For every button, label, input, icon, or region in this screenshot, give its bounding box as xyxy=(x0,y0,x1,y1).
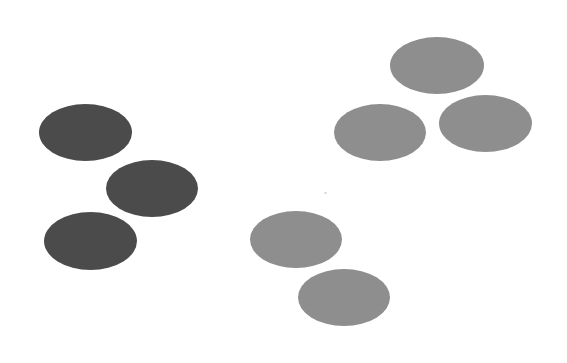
light-ellipse-bottom-right xyxy=(298,269,390,326)
light-ellipse-mid-right xyxy=(439,95,532,152)
light-ellipse-top xyxy=(390,37,484,94)
dark-ellipse-1 xyxy=(39,104,132,161)
light-ellipse-mid-left xyxy=(334,104,426,161)
background-speck xyxy=(324,192,327,194)
dark-ellipse-3 xyxy=(44,212,137,270)
dark-ellipse-2 xyxy=(106,160,198,217)
light-ellipse-bottom-left xyxy=(250,211,342,268)
diagram-canvas xyxy=(0,0,567,363)
